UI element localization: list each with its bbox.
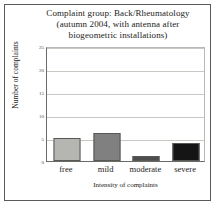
bar-moderate[interactable] <box>133 156 160 161</box>
chart-figure: Complaint group: Back/Rheumatology (autu… <box>0 0 215 205</box>
bar-mild[interactable] <box>93 133 120 161</box>
y-axis-tick-label: 10 <box>30 114 44 119</box>
plot-area <box>46 47 205 162</box>
x-axis-tick-labels: freemildmoderatesevere <box>46 164 205 176</box>
chart-title: Complaint group: Back/Rheumatology (autu… <box>28 8 208 41</box>
y-axis-tick-label: 25 <box>30 45 44 50</box>
y-axis-tick-labels: 0510152025 <box>28 47 44 162</box>
x-axis-tick-label-severe: severe <box>174 164 196 174</box>
y-axis-tick-label: 5 <box>30 137 44 142</box>
bar-slot <box>166 48 206 161</box>
bar-slot <box>127 48 167 161</box>
bar-slot <box>47 48 87 161</box>
bar-severe[interactable] <box>173 143 200 161</box>
bar-series <box>47 48 204 161</box>
y-axis-tick-label: 15 <box>30 91 44 96</box>
x-axis-tick-label-moderate: moderate <box>130 164 162 174</box>
y-axis-tick-label: 0 <box>30 160 44 165</box>
bar-free[interactable] <box>53 138 80 161</box>
y-axis-tick-label: 20 <box>30 68 44 73</box>
x-axis-tick-label-free: free <box>59 164 72 174</box>
chart-title-line-2: (autumn 2004, with antenna after <box>28 19 208 30</box>
y-axis-title: Number of complaints <box>12 23 20 127</box>
bar-slot <box>87 48 127 161</box>
x-axis-title: Intensity of complaints <box>46 181 205 189</box>
chart-title-line-1: Complaint group: Back/Rheumatology <box>28 8 208 19</box>
x-axis-tick-label-mild: mild <box>98 164 114 174</box>
chart-title-line-3: biogeometric installations) <box>28 30 208 41</box>
